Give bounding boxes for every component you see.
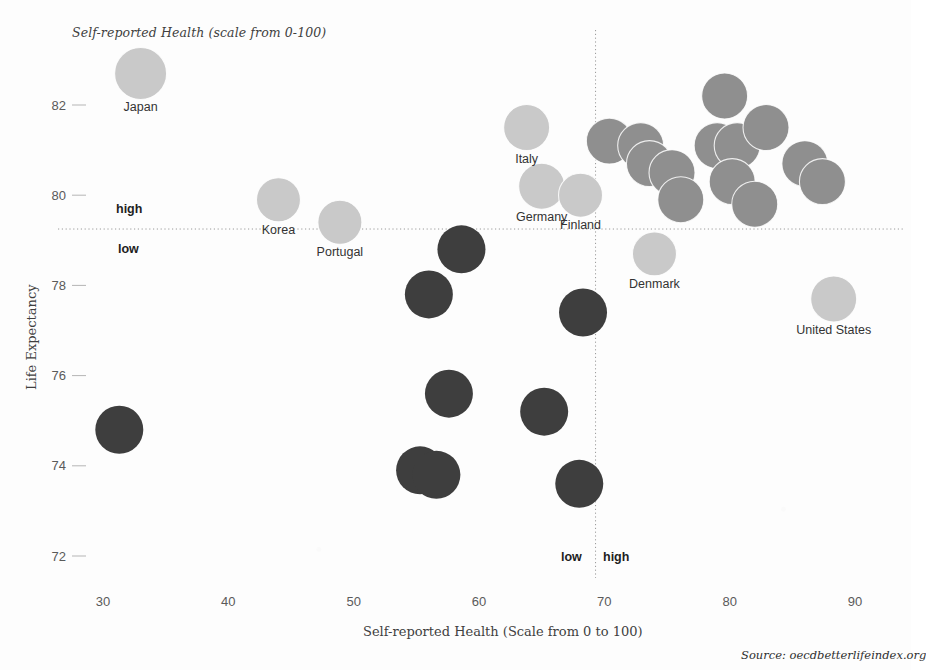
bubble-unlabeled [405, 270, 453, 318]
bubble-italy [504, 105, 550, 151]
bubble-unlabeled [425, 370, 473, 418]
bubble-unlabeled [95, 406, 143, 454]
bubble-unlabeled [799, 159, 845, 205]
bubble-unlabeled [658, 177, 704, 223]
bubble-unlabeled [743, 105, 789, 151]
bubble-germany [519, 163, 565, 209]
y-tick-marks [72, 105, 86, 556]
bubble-finland [559, 173, 603, 217]
bubble-portugal [318, 200, 362, 244]
bubble-united-states [811, 276, 857, 322]
bubble-unlabeled [437, 225, 485, 273]
bubble-japan [115, 47, 167, 99]
bubble-denmark [632, 232, 676, 276]
bubble-unlabeled [520, 388, 568, 436]
bubble-unlabeled [732, 181, 778, 227]
bubble-korea [256, 178, 300, 222]
bubble-unlabeled [555, 460, 603, 508]
bubble-series [95, 47, 856, 507]
bubble-unlabeled [559, 288, 607, 336]
bubble-unlabeled [412, 451, 460, 499]
bubble-unlabeled [702, 73, 748, 119]
